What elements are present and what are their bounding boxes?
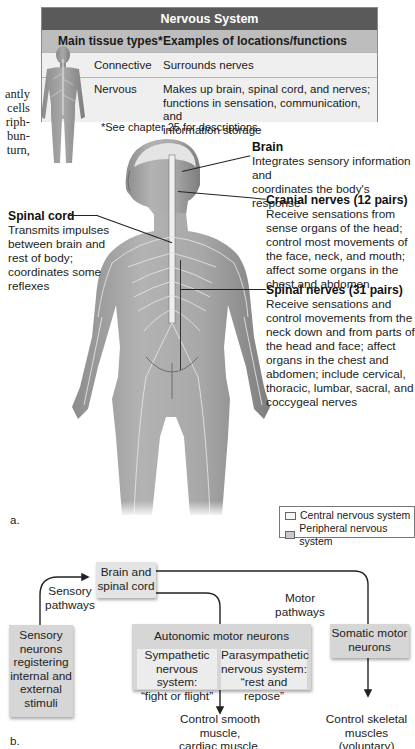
- book-line: bun-: [0, 129, 30, 143]
- box-line: nervous system:: [221, 663, 307, 677]
- book-line: antly: [0, 87, 30, 101]
- box-line: Brain and: [96, 566, 156, 580]
- label-line: control movements from the: [266, 311, 415, 325]
- label-line: Motor: [270, 592, 330, 606]
- label-line: Transmits impulses: [8, 223, 109, 237]
- label-line: abdomen; include cervical,: [266, 367, 415, 381]
- label-title: Spinal cord: [8, 209, 109, 223]
- sensory-neurons-box: Sensory neurons registering internal and…: [9, 625, 73, 717]
- function-line: Makes up brain, spinal cord, and nerves;: [163, 83, 377, 97]
- somatic-output-text: Control skeletal muscles (voluntary): [318, 713, 415, 749]
- pns-swatch-icon: [285, 531, 295, 539]
- box-line: stimuli: [9, 697, 73, 711]
- panel-label-b: b.: [10, 735, 20, 747]
- function-connective: Surrounds nerves: [163, 59, 254, 73]
- spinal-nerves-leader-vertical: [180, 260, 181, 370]
- label-line: affect some organs in the: [266, 263, 408, 277]
- label-line: Sensory: [44, 585, 96, 599]
- motor-pathways-label: Motor pathways: [270, 592, 330, 619]
- box-line: “fight or flight”: [137, 690, 217, 704]
- sympathetic-box: Sympathetic nervous system: “fight or fl…: [137, 649, 217, 689]
- box-line: neurons: [9, 643, 73, 657]
- header-examples: Examples of locations/functions: [163, 30, 347, 52]
- label-line: between brain and: [8, 237, 109, 251]
- label-line: Receive sensations and: [266, 297, 415, 311]
- legend-label: Peripheral nervous system: [299, 522, 414, 548]
- cns-swatch-icon: [285, 512, 296, 520]
- label-title: Spinal nerves (31 pairs): [266, 283, 415, 297]
- label-line: thoracic, lumbar, sacral, and: [266, 381, 415, 395]
- human-nervous-system-figure-icon: [68, 137, 278, 517]
- label-line: cardiac muscle,: [160, 740, 280, 749]
- tissue-connective: Connective: [94, 59, 152, 73]
- box-line: Sympathetic: [137, 649, 217, 663]
- label-line: Control smooth muscle,: [160, 713, 280, 740]
- box-line: Somatic motor: [330, 627, 409, 641]
- label-line: pathways: [270, 606, 330, 620]
- box-line: internal and: [9, 670, 73, 684]
- legend: Central nervous system Peripheral nervou…: [279, 506, 415, 538]
- box-line: spinal cord: [96, 580, 156, 594]
- label-title: Brain: [252, 140, 415, 154]
- autonomic-title: Autonomic motor neurons: [132, 624, 311, 644]
- table-footnote: *See chapter 25 for descriptions.: [101, 121, 261, 133]
- label-line: Control skeletal: [318, 713, 415, 727]
- box-line: Parasympathetic: [221, 649, 307, 663]
- box-line: nervous system:: [137, 663, 217, 690]
- tissue-nervous: Nervous: [94, 83, 137, 97]
- spinal-cord-leader-line-a: [68, 215, 98, 216]
- label-spinal-cord: Spinal cord Transmits impulses between b…: [8, 209, 109, 293]
- panel-label-a: a.: [10, 514, 20, 526]
- somatic-motor-neurons-box: Somatic motor neurons: [330, 624, 409, 658]
- label-line: Integrates sensory information and: [252, 154, 415, 182]
- label-line: pathways: [44, 599, 96, 613]
- legend-item-pns: Peripheral nervous system: [285, 522, 414, 548]
- box-line: “rest and repose”: [221, 676, 307, 703]
- label-title: Cranial nerves (12 pairs): [266, 193, 408, 207]
- brain-spinal-cord-box: Brain and spinal cord: [96, 562, 156, 598]
- autonomic-motor-neurons-box: Autonomic motor neurons Sympathetic nerv…: [132, 624, 311, 690]
- box-line: external: [9, 683, 73, 697]
- book-line: riph-: [0, 115, 30, 129]
- label-line: muscles (voluntary): [318, 727, 415, 749]
- label-line: control most movements of: [266, 235, 408, 249]
- table-title: Nervous System: [42, 8, 377, 30]
- label-line: rest of body;: [8, 251, 109, 265]
- legend-label: Central nervous system: [300, 509, 410, 522]
- label-line: coordinates some: [8, 265, 109, 279]
- autonomic-output-text: Control smooth muscle, cardiac muscle, g…: [160, 713, 280, 749]
- label-line: sense organs of the head;: [266, 221, 408, 235]
- label-cranial-nerves: Cranial nerves (12 pairs) Receive sensat…: [266, 193, 408, 291]
- label-line: the face, neck, and mouth;: [266, 249, 408, 263]
- spinal-nerves-leader-line: [181, 289, 266, 290]
- box-line: neurons: [330, 641, 409, 655]
- book-margin-text: antly cells riph- bun- turn,: [0, 87, 30, 157]
- label-spinal-nerves: Spinal nerves (31 pairs) Receive sensati…: [266, 283, 415, 409]
- label-line: neck down and from parts of: [266, 325, 415, 339]
- sensory-pathways-label: Sensory pathways: [44, 585, 96, 612]
- book-line: turn,: [0, 143, 30, 157]
- box-line: Sensory: [9, 629, 73, 643]
- label-line: the head and face; affect: [266, 339, 415, 353]
- label-line: Receive sensations from: [266, 207, 408, 221]
- label-line: coccygeal nerves: [266, 395, 415, 409]
- legend-item-cns: Central nervous system: [285, 509, 414, 522]
- box-line: registering: [9, 656, 73, 670]
- parasympathetic-box: Parasympathetic nervous system: “rest an…: [221, 649, 307, 689]
- function-line: functions in sensation, communication, a…: [163, 97, 377, 124]
- label-line: organs in the chest and: [266, 353, 415, 367]
- label-line: reflexes: [8, 279, 109, 293]
- book-line: cells: [0, 101, 30, 115]
